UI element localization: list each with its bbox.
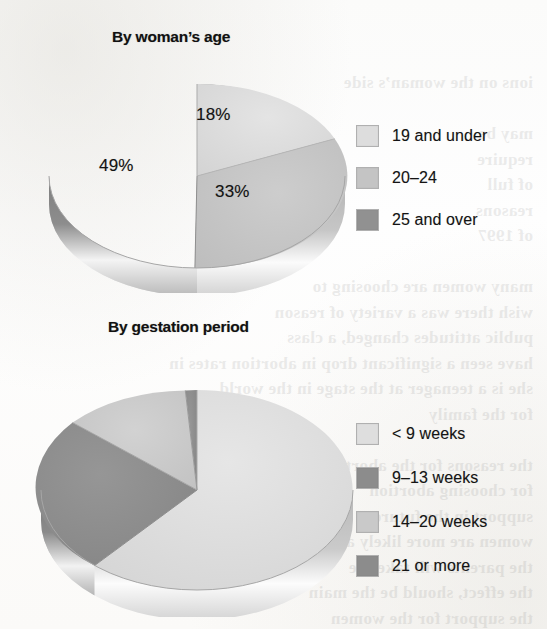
legend-item-14-20-weeks[interactable]: 14–20 weeks <box>356 510 487 533</box>
chart-title-age: By woman’s age <box>112 28 230 46</box>
pie-svg-age <box>42 58 352 293</box>
legend-label: 21 or more <box>392 557 470 575</box>
pie-value-label-33: 33% <box>215 182 250 202</box>
legend-swatch-icon <box>356 555 379 577</box>
legend-label: < 9 weeks <box>392 425 465 443</box>
legend-item-19-and-under[interactable]: 19 and under <box>356 124 488 147</box>
legend-swatch-icon <box>356 167 379 189</box>
pie-chart-by-gestation-period: By gestation period <box>0 312 547 629</box>
pie-svg-gestation <box>32 362 362 617</box>
legend-label: 9–13 weeks <box>392 469 478 487</box>
legend-swatch-icon <box>356 467 379 489</box>
pie-value-label-18: 18% <box>196 105 231 125</box>
legend-swatch-icon <box>356 423 379 445</box>
legend-swatch-icon <box>356 511 379 533</box>
legend-label: 25 and over <box>392 211 478 229</box>
legend-item-9-13-weeks[interactable]: 9–13 weeks <box>356 466 487 489</box>
pie-value-label-49: 49% <box>99 156 134 176</box>
chart-title-gestation: By gestation period <box>108 318 249 336</box>
legend-label: 14–20 weeks <box>392 513 487 531</box>
legend-label: 19 and under <box>392 127 488 145</box>
legend-gestation: < 9 weeks 9–13 weeks 14–20 weeks 21 or m… <box>356 422 487 598</box>
pie-graphic-gestation <box>32 362 362 617</box>
legend-item-less-than-9-weeks[interactable]: < 9 weeks <box>356 422 487 445</box>
legend-item-21-or-more[interactable]: 21 or more <box>356 554 487 577</box>
legend-item-25-and-over[interactable]: 25 and over <box>356 208 488 231</box>
legend-swatch-icon <box>356 209 379 231</box>
legend-item-20-24[interactable]: 20–24 <box>356 166 488 189</box>
legend-swatch-icon <box>356 125 379 147</box>
pie-rim-age-dark <box>49 176 197 293</box>
pie-chart-by-womans-age: By woman’s age <box>0 6 547 306</box>
legend-label: 20–24 <box>392 169 437 187</box>
legend-age: 19 and under 20–24 25 and over <box>356 124 488 250</box>
pie-graphic-age <box>42 58 352 293</box>
